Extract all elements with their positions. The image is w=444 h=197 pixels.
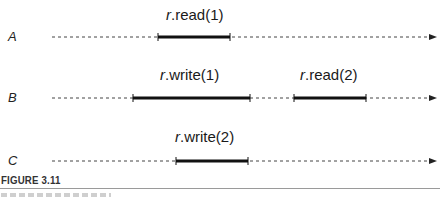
interval-a-read-1 xyxy=(158,33,230,41)
thread-label-b: B xyxy=(8,90,17,105)
method-label-b-write-1: r.write(1) xyxy=(160,66,219,83)
thread-label-c: C xyxy=(8,153,17,168)
timeline-canvas xyxy=(0,0,444,197)
interval-b-write-1 xyxy=(133,94,250,102)
method-label-c-write-2: r.write(2) xyxy=(175,128,234,145)
caption-divider xyxy=(0,188,440,189)
thread-c-timeline xyxy=(52,157,436,165)
method-label-b-read-2: r.read(2) xyxy=(300,66,358,83)
thread-label-a: A xyxy=(8,29,17,44)
figure-title: FIGURE 3.11 xyxy=(1,174,61,186)
interval-b-read-2 xyxy=(294,94,366,102)
method-label-a-read-1: r.read(1) xyxy=(166,6,224,23)
truncated-caption-text xyxy=(1,193,111,197)
thread-a-timeline xyxy=(52,33,436,41)
thread-b-timeline xyxy=(52,94,436,102)
interval-c-write-2 xyxy=(176,157,248,165)
